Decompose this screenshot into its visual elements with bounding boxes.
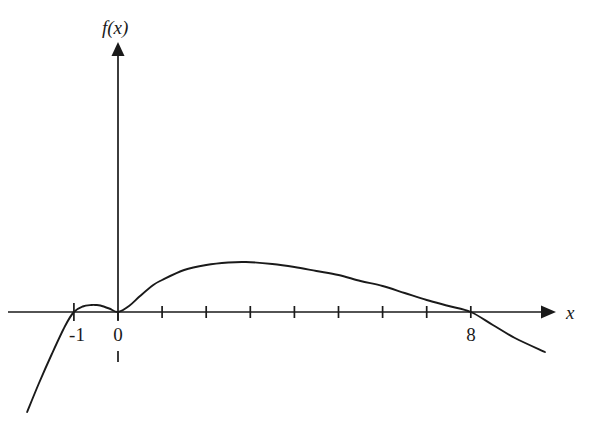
x-tick-label-8: 8: [457, 325, 485, 344]
y-axis: [112, 42, 125, 320]
function-graph-figure: f(x) x -1 0 8: [0, 0, 612, 443]
y-axis-arrowhead: [112, 42, 125, 56]
graph-canvas: [0, 0, 612, 443]
x-tick-label-minus-1: -1: [58, 325, 96, 344]
origin-label: 0: [104, 325, 132, 344]
x-axis: [8, 306, 556, 319]
x-axis-label: x: [566, 303, 574, 322]
x-axis-arrowhead: [541, 306, 556, 319]
y-axis-label: f(x): [102, 18, 128, 37]
